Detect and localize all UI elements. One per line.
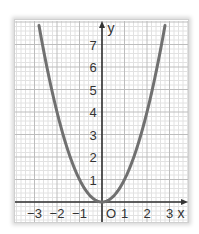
y-axis-label: y (108, 20, 115, 36)
y-tick-label: 1 (89, 173, 96, 188)
y-tick-label: 6 (89, 60, 96, 75)
y-tick-label: 5 (89, 83, 96, 98)
x-tick-label: 1 (121, 206, 128, 221)
y-tick-label: 2 (89, 150, 96, 165)
y-tick-label: 3 (89, 128, 96, 143)
x-tick-label: 2 (143, 206, 150, 221)
x-axis-label: x (178, 205, 185, 221)
origin-label: O (106, 206, 116, 221)
y-tick-label: 7 (89, 38, 96, 53)
x-tick-label: −2 (50, 206, 65, 221)
parabola-chart: −3−2−11231234567Oxy (0, 0, 199, 234)
x-tick-label: −3 (27, 206, 42, 221)
x-tick-label: −1 (72, 206, 87, 221)
y-tick-label: 4 (89, 105, 96, 120)
x-tick-label: 3 (166, 206, 173, 221)
